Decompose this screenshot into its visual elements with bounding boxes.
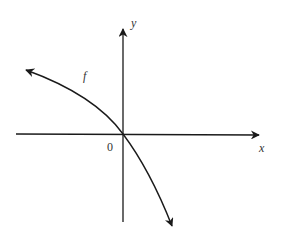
x-axis-label: x xyxy=(258,141,265,155)
y-axis-label: y xyxy=(130,16,137,30)
curve-label-f: f xyxy=(83,69,88,83)
x-axis xyxy=(16,134,259,135)
origin-label: 0 xyxy=(107,140,113,154)
function-graph: y x 0 f xyxy=(0,0,281,235)
curve-f xyxy=(26,70,172,226)
